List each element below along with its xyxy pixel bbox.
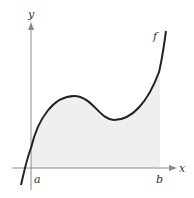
y-axis-arrow-icon: [28, 22, 34, 30]
lower-bound-label: a: [34, 173, 41, 186]
area-under-curve-diagram: y x f a b: [0, 0, 194, 198]
y-axis-label: y: [27, 8, 35, 21]
function-label: f: [152, 30, 159, 43]
upper-bound-label: b: [156, 173, 163, 186]
x-axis-label: x: [179, 162, 186, 175]
x-axis-arrow-icon: [169, 165, 177, 171]
shaded-region: [31, 72, 159, 168]
